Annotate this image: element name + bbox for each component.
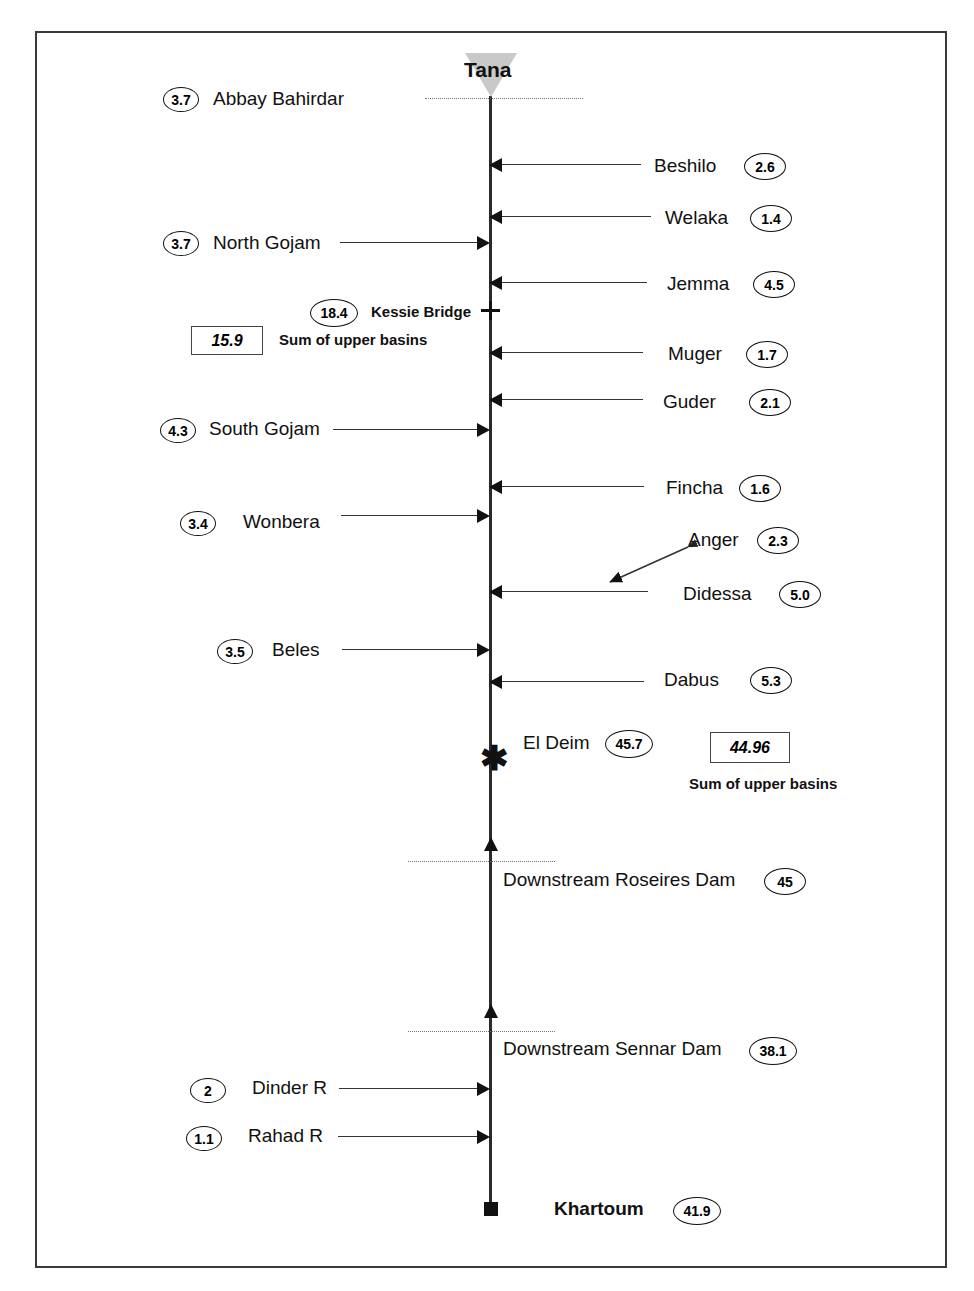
arrowhead-roseires-upstream	[484, 837, 498, 851]
badge-north-gojam: 3.7	[163, 231, 199, 256]
dotted-reference-line-bahirdar	[425, 98, 583, 99]
sum-box-label-eldeim: Sum of upper basins	[689, 775, 837, 792]
arrowhead-beshilo	[489, 158, 502, 172]
node-label-guder: Guder	[663, 391, 716, 413]
arrowhead-rahad	[477, 1130, 490, 1144]
connector-north-gojam	[340, 242, 482, 243]
connector-guder	[497, 399, 643, 400]
connector-fincha	[497, 486, 644, 487]
connector-didessa	[497, 591, 648, 592]
arrowhead-didessa	[489, 585, 502, 599]
connector-wonbera	[341, 515, 482, 516]
node-label-wonbera: Wonbera	[243, 511, 320, 533]
arrowhead-north-gojam	[477, 236, 490, 250]
node-label-tana: Tana	[464, 58, 511, 82]
sum-box-label-kessie: Sum of upper basins	[279, 331, 427, 348]
node-label-welaka: Welaka	[665, 207, 728, 229]
arrowhead-dabus	[489, 675, 502, 689]
badge-dabus: 5.3	[750, 667, 792, 694]
badge-fincha: 1.6	[739, 475, 781, 502]
connector-beshilo	[497, 164, 641, 165]
badge-khartoum: 41.9	[673, 1197, 721, 1225]
node-label-north-gojam: North Gojam	[213, 232, 321, 254]
sum-box-value-kessie: 15.9	[191, 326, 263, 355]
connector-jemma	[497, 282, 647, 283]
node-label-rahad: Rahad R	[248, 1125, 323, 1147]
node-label-didessa: Didessa	[683, 583, 752, 605]
badge-welaka: 1.4	[750, 205, 792, 232]
node-label-abbay-bahirdar: Abbay Bahirdar	[213, 88, 344, 110]
node-label-dabus: Dabus	[664, 669, 719, 691]
connector-beles	[342, 649, 482, 650]
connector-dinder	[339, 1088, 482, 1089]
node-label-kessie-bridge: Kessie Bridge	[371, 303, 471, 320]
arrowhead-welaka	[489, 210, 502, 224]
arrowhead-sennar-upstream	[484, 1004, 498, 1018]
arrowhead-dinder	[477, 1082, 490, 1096]
node-label-fincha: Fincha	[666, 477, 723, 499]
arrowhead-fincha	[489, 480, 502, 494]
badge-didessa: 5.0	[779, 581, 821, 608]
node-label-el-deim: El Deim	[523, 732, 590, 754]
badge-dinder: 2	[190, 1078, 226, 1103]
badge-beshilo: 2.6	[744, 153, 786, 180]
badge-anger: 2.3	[757, 527, 799, 554]
arrowhead-beles	[477, 643, 490, 657]
badge-kessie-bridge: 18.4	[310, 299, 358, 327]
arrowhead-muger	[489, 346, 502, 360]
badge-el-deim: 45.7	[605, 730, 653, 758]
dotted-reference-line-sennar	[408, 1031, 555, 1032]
node-label-jemma: Jemma	[667, 273, 729, 295]
khartoum-square-marker	[484, 1202, 498, 1216]
badge-rahad: 1.1	[186, 1126, 222, 1151]
badge-roseires-dam: 45	[764, 868, 806, 895]
diagram-canvas: Tana 3.7 Abbay Bahirdar Beshilo 2.6 Wela…	[0, 0, 974, 1291]
node-label-sennar-dam: Downstream Sennar Dam	[503, 1038, 722, 1060]
dotted-reference-line-roseires	[408, 861, 555, 862]
node-label-south-gojam: South Gojam	[209, 418, 320, 440]
sum-box-value-eldeim: 44.96	[710, 732, 790, 763]
el-deim-asterisk-marker: ✱	[480, 741, 508, 775]
badge-jemma: 4.5	[753, 271, 795, 298]
arrowhead-guder	[489, 393, 502, 407]
badge-guder: 2.1	[749, 389, 791, 416]
connector-welaka	[497, 216, 651, 217]
connector-muger	[497, 352, 643, 353]
badge-wonbera: 3.4	[180, 511, 216, 536]
arrowhead-jemma	[489, 276, 502, 290]
node-label-muger: Muger	[668, 343, 722, 365]
node-label-beshilo: Beshilo	[654, 155, 716, 177]
arrowhead-south-gojam	[477, 423, 490, 437]
badge-abbay-bahirdar: 3.7	[163, 87, 199, 112]
connector-rahad	[338, 1136, 482, 1137]
node-label-dinder: Dinder R	[252, 1077, 327, 1099]
badge-beles: 3.5	[217, 639, 253, 664]
badge-sennar-dam: 38.1	[749, 1037, 797, 1065]
badge-south-gojam: 4.3	[160, 418, 196, 443]
node-label-khartoum: Khartoum	[554, 1198, 644, 1220]
connector-south-gojam	[333, 429, 482, 430]
connector-dabus	[497, 681, 644, 682]
arrowhead-wonbera	[477, 509, 490, 523]
node-label-roseires-dam: Downstream Roseires Dam	[503, 869, 735, 891]
node-label-beles: Beles	[272, 639, 320, 661]
badge-muger: 1.7	[746, 341, 788, 368]
